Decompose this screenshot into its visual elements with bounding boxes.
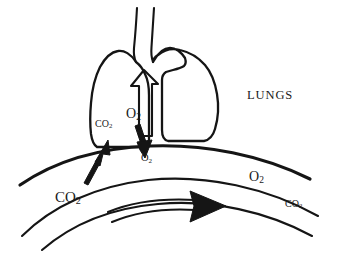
label-co2-membrane-subscript: 2 (109, 122, 112, 129)
trachea-left-line (134, 8, 137, 62)
label-o2-blood-formula: O (141, 152, 149, 163)
label-o2-alveolar-formula: O (126, 106, 136, 121)
blood-flow-shaft-lower (112, 210, 196, 223)
label-co2-blood: CO2 (55, 190, 81, 206)
label-o2-alveolar-subscript: 2 (136, 112, 141, 122)
label-co2-vessel-subscript: 2 (299, 202, 302, 209)
label-o2-vessel-subscript: 2 (259, 175, 264, 185)
label-lungs: LUNGS (247, 89, 293, 102)
label-o2-alveolar: O2 (126, 107, 141, 123)
label-co2-membrane-formula: CO (95, 118, 109, 129)
trachea-right-line (151, 8, 154, 62)
diagram-canvas: LUNGS CO2 O2 O2 CO2 O2 CO2 (0, 0, 341, 254)
gas-exchange-illustration (0, 0, 341, 254)
label-o2-vessel: O2 (249, 170, 264, 186)
blood-flow-arrowhead (190, 191, 226, 222)
label-co2-blood-formula: CO (55, 189, 76, 205)
vessel-outer-wall (22, 179, 318, 236)
label-co2-blood-subscript: 2 (76, 195, 81, 206)
label-co2-vessel: CO2 (285, 199, 302, 210)
label-co2-vessel-formula: CO (285, 198, 299, 209)
lung-right-lobe (153, 48, 218, 141)
label-o2-vessel-formula: O (249, 169, 259, 184)
label-co2-membrane: CO2 (95, 119, 112, 130)
label-o2-blood: O2 (141, 153, 152, 165)
label-o2-blood-subscript: 2 (149, 157, 153, 165)
